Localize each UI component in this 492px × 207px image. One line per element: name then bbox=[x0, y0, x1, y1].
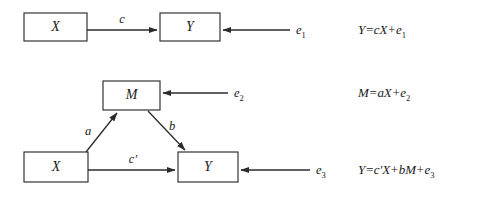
error-label-e2: e2 bbox=[234, 86, 244, 103]
equation-1-subscript: 1 bbox=[402, 30, 406, 40]
figure-root: X Y c e1 Y=cX+e1 M X Y e2 a b bbox=[0, 0, 492, 207]
path-label-c: c bbox=[119, 12, 125, 26]
direct-effect-panel: X Y c e1 Y=cX+e1 bbox=[24, 12, 406, 41]
error-subscript-e1: 1 bbox=[302, 30, 306, 40]
equation-3: Y=c′X+bM+e3 bbox=[358, 162, 434, 180]
equation-2-rhs: =aX+e bbox=[369, 85, 407, 100]
error-label-e1: e1 bbox=[296, 23, 306, 40]
node-label-m: M bbox=[125, 87, 139, 102]
equation-1: Y=cX+e1 bbox=[358, 22, 406, 40]
error-subscript-e2: 2 bbox=[240, 93, 244, 103]
path-diagram-canvas: X Y c e1 Y=cX+e1 M X Y e2 a b bbox=[0, 0, 492, 207]
path-arrow-b bbox=[148, 111, 185, 150]
mediation-panel: M X Y e2 a b c′ e3 M=aX+e2 Y=c′X+bM+e3 bbox=[24, 81, 434, 182]
equation-2: M=aX+e2 bbox=[357, 85, 410, 103]
path-label-a: a bbox=[85, 124, 91, 138]
equation-3-rhs: =c′X+bM+e bbox=[365, 162, 430, 177]
error-label-e3: e3 bbox=[316, 163, 326, 180]
node-label-x-top: X bbox=[50, 19, 60, 34]
equation-2-subscript: 2 bbox=[406, 93, 410, 103]
node-label-x-bottom: X bbox=[51, 159, 61, 174]
path-label-b: b bbox=[169, 119, 175, 133]
equation-3-subscript: 3 bbox=[430, 170, 434, 180]
equation-1-rhs: =cX+e bbox=[365, 22, 402, 37]
path-label-c-prime: c′ bbox=[129, 152, 138, 166]
error-subscript-e3: 3 bbox=[322, 170, 326, 180]
